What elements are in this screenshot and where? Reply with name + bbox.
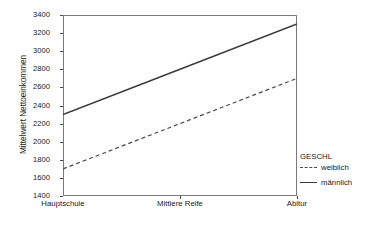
legend: GESCHL weiblich männlich	[300, 152, 371, 193]
y-tick-mark	[60, 196, 63, 197]
series-line-weiblich	[63, 78, 297, 169]
plot-series-layer	[63, 15, 297, 196]
legend-label-weiblich: weiblich	[321, 163, 349, 172]
legend-label-maennlich: männlich	[321, 178, 352, 187]
x-tick-label: Mittlere Reife	[157, 199, 203, 208]
legend-dashed-line-icon	[300, 167, 317, 170]
x-tick-mark	[180, 196, 181, 199]
legend-item-maennlich[interactable]: männlich	[300, 178, 371, 193]
legend-title: GESCHL	[300, 152, 371, 161]
series-line-männlich	[63, 24, 297, 115]
legend-solid-line-icon	[300, 182, 317, 185]
legend-item-weiblich[interactable]: weiblich	[300, 163, 371, 178]
x-tick-label: Hauptschule	[41, 199, 84, 208]
line-chart: Mittelwert Nettoeinkommen 34003200300028…	[0, 0, 371, 230]
x-tick-label: Abitur	[287, 199, 307, 208]
x-tick-mark	[297, 196, 298, 199]
